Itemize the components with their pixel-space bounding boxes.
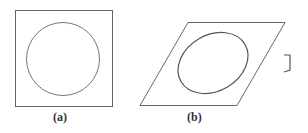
figure-a-label: (a) xyxy=(53,110,67,125)
figure-a xyxy=(16,11,113,107)
figure-b-label: (b) xyxy=(187,110,202,125)
square-outline xyxy=(16,11,113,107)
circle-outline xyxy=(27,23,100,96)
diagram-canvas xyxy=(0,0,308,133)
ellipse-outline xyxy=(167,20,259,105)
figure-b xyxy=(140,20,290,105)
bracket-mark xyxy=(284,55,290,72)
